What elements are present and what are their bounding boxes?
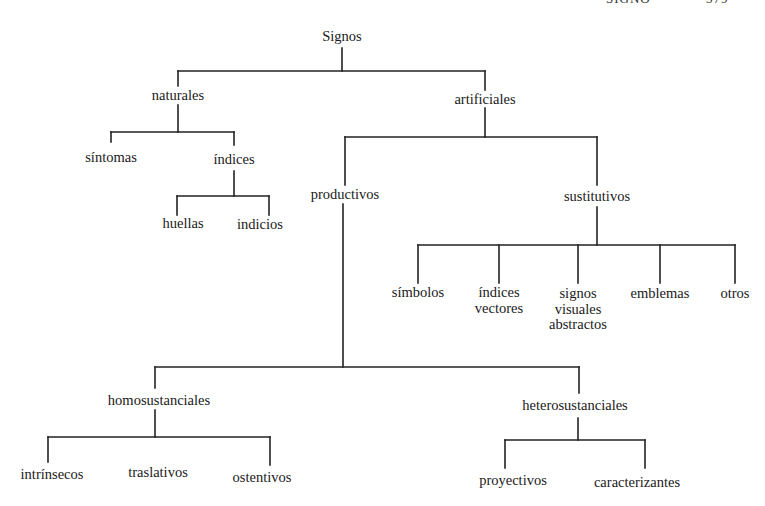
node-heterosustanciales: heterosustanciales	[522, 398, 628, 413]
tree-connectors	[0, 0, 765, 506]
node-sustitutivos: sustitutivos	[564, 189, 630, 204]
node-traslativos: traslativos	[128, 465, 188, 480]
node-emblemas: emblemas	[631, 286, 690, 301]
node-otros: otros	[721, 286, 750, 301]
node-artificiales: artificiales	[454, 92, 515, 107]
node-huellas: huellas	[162, 216, 203, 231]
node-indices: índices	[213, 152, 254, 167]
node-homosustanciales: homosustanciales	[108, 393, 210, 408]
node-intrinsecos: intrínsecos	[21, 467, 84, 482]
node-productivos: productivos	[311, 187, 379, 202]
book-page: SIGNO 379	[0, 0, 765, 506]
node-proyectivos: proyectivos	[479, 473, 547, 488]
node-indices-vectores: índices vectores	[475, 285, 523, 316]
node-ostentivos: ostentivos	[233, 470, 292, 485]
node-sintomas: síntomas	[85, 150, 137, 165]
node-signos-visuales-abstractos: signos visuales abstractos	[549, 286, 607, 333]
node-simbolos: símbolos	[392, 285, 444, 300]
node-signos: Signos	[322, 29, 362, 44]
node-caracterizantes: caracterizantes	[594, 475, 680, 490]
node-naturales: naturales	[152, 88, 204, 103]
node-indicios: indicios	[237, 217, 283, 232]
